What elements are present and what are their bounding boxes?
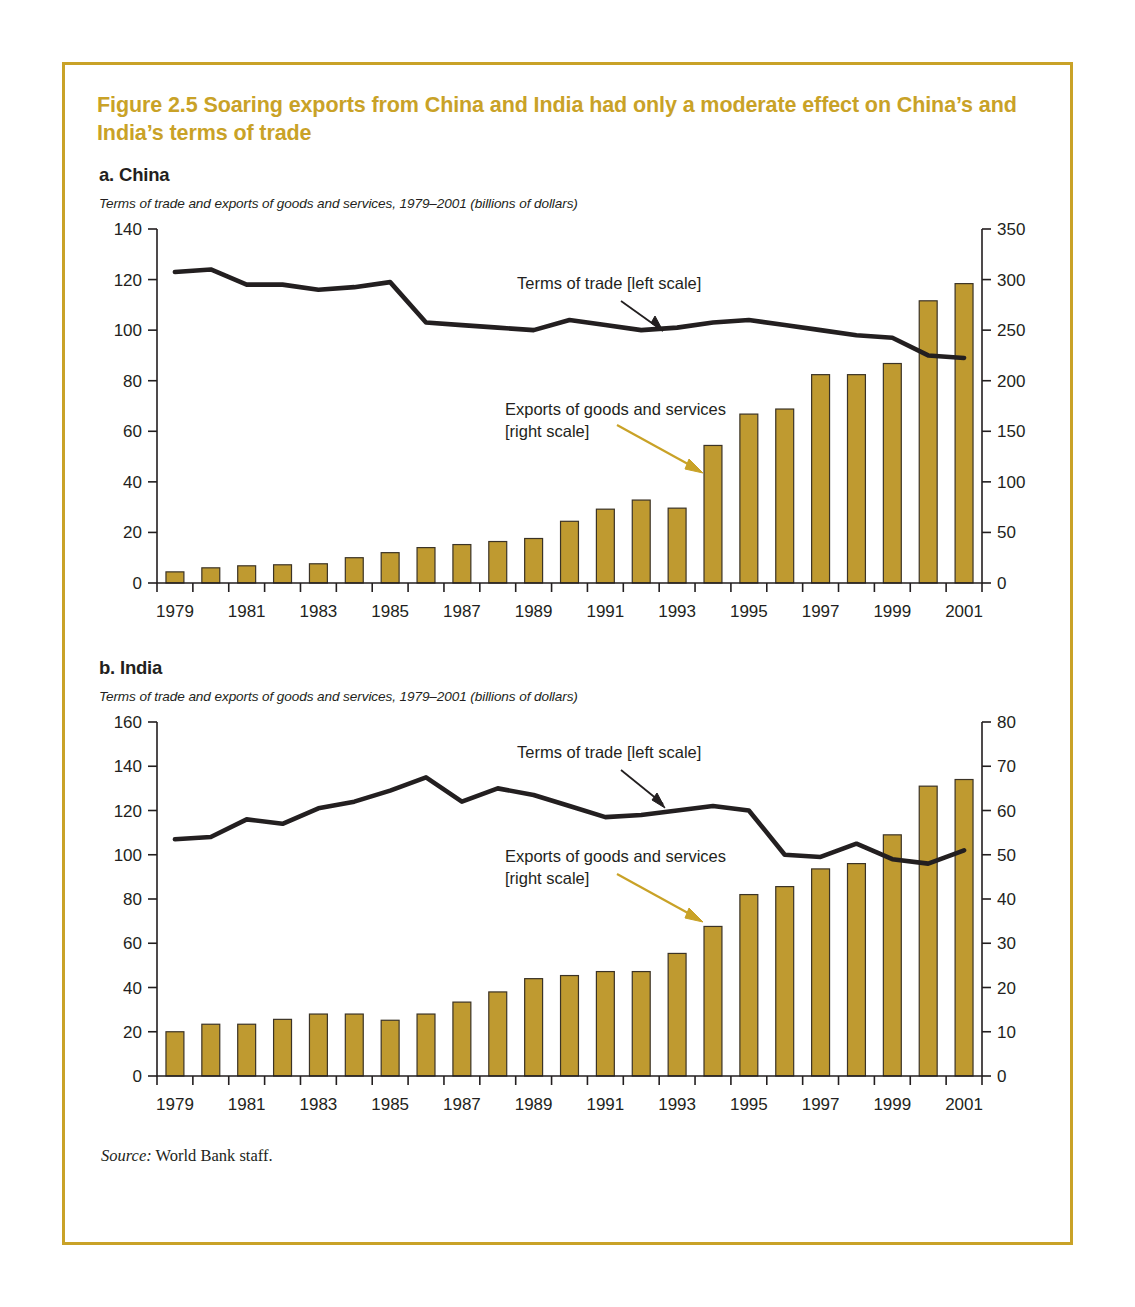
left-axis-tick-label: 100 (114, 846, 142, 865)
right-axis-tick-label: 20 (997, 978, 1016, 997)
x-axis-tick-label: 2001 (945, 1095, 983, 1114)
bar-1982 (274, 565, 292, 583)
bar-1991 (596, 971, 614, 1075)
china-bars-annotation-label-1: Exports of goods and services (505, 400, 726, 418)
x-axis-tick-label: 1985 (371, 602, 409, 621)
x-axis-tick-label: 1981 (228, 1095, 266, 1114)
bar-1992 (632, 500, 650, 583)
left-axis-tick-label: 80 (123, 890, 142, 909)
source-label: Source: (101, 1146, 152, 1165)
chart-india: 0204060801001201401600102030405060708019… (97, 712, 1040, 1132)
left-axis-tick-label: 100 (114, 321, 142, 340)
x-axis-tick-label: 1983 (299, 1095, 337, 1114)
bar-1997 (812, 374, 830, 582)
china-bars-annotation-arrow (617, 425, 697, 469)
source-note: Source: World Bank staff. (101, 1146, 1040, 1166)
right-axis-tick-label: 50 (997, 846, 1016, 865)
x-axis-tick-label: 1999 (873, 1095, 911, 1114)
right-axis-tick-label: 200 (997, 371, 1025, 390)
figure-title: Figure 2.5 Soaring exports from China an… (97, 91, 1027, 148)
china-bars-arrowhead-icon (685, 459, 703, 473)
left-axis-tick-label: 160 (114, 713, 142, 732)
x-axis-tick-label: 1981 (228, 602, 266, 621)
bar-1986 (417, 1014, 435, 1076)
left-axis-tick-label: 60 (123, 422, 142, 441)
x-axis-tick-label: 1983 (299, 602, 337, 621)
x-axis-tick-label: 1979 (156, 602, 194, 621)
x-axis-tick-label: 1995 (730, 1095, 768, 1114)
x-axis-tick-label: 1989 (515, 1095, 553, 1114)
bar-1994 (704, 445, 722, 583)
left-axis-tick-label: 140 (114, 757, 142, 776)
india-bars-annotation-arrow (617, 874, 697, 918)
x-axis-tick-label: 2001 (945, 602, 983, 621)
bar-2000 (919, 301, 937, 583)
left-axis-tick-label: 140 (114, 220, 142, 239)
right-axis-tick-label: 50 (997, 523, 1016, 542)
china-annotations: Terms of trade [left scale] Exports of g… (505, 274, 726, 473)
bar-1992 (632, 971, 650, 1075)
india-bars-annotation-label-1: Exports of goods and services (505, 847, 726, 865)
bar-1999 (883, 835, 901, 1076)
chart-india-svg: 0204060801001201401600102030405060708019… (97, 712, 1042, 1132)
left-axis-tick-label: 120 (114, 801, 142, 820)
bar-1990 (561, 521, 579, 583)
panel-a-subtitle: Terms of trade and exports of goods and … (99, 196, 1040, 211)
x-axis-tick-label: 1995 (730, 602, 768, 621)
bar-1980 (202, 568, 220, 583)
bar-1989 (525, 978, 543, 1075)
x-axis-tick-label: 1997 (802, 1095, 840, 1114)
right-axis-tick-label: 30 (997, 934, 1016, 953)
right-axis-tick-label: 60 (997, 801, 1016, 820)
right-axis-tick-label: 40 (997, 890, 1016, 909)
left-axis-tick-label: 20 (123, 1023, 142, 1042)
bar-1996 (776, 886, 794, 1075)
bar-1987 (453, 544, 471, 582)
figure-frame: Figure 2.5 Soaring exports from China an… (62, 62, 1073, 1245)
right-axis-tick-label: 300 (997, 270, 1025, 289)
x-axis-tick-label: 1987 (443, 1095, 481, 1114)
bar-1981 (238, 566, 256, 583)
bar-1990 (561, 975, 579, 1075)
x-axis-tick-label: 1985 (371, 1095, 409, 1114)
left-axis-tick-label: 0 (133, 574, 142, 593)
chart-china: 0204060801001201400501001502002503003501… (97, 219, 1040, 639)
panel-b-label: b. India (99, 657, 1040, 679)
bar-1987 (453, 1002, 471, 1076)
india-bars-annotation-label-2: [right scale] (505, 869, 589, 887)
bar-1980 (202, 1024, 220, 1076)
bar-1997 (812, 869, 830, 1076)
left-axis-tick-label: 20 (123, 523, 142, 542)
left-axis-tick-label: 120 (114, 270, 142, 289)
left-axis-tick-label: 60 (123, 934, 142, 953)
right-axis-tick-label: 0 (997, 574, 1006, 593)
x-axis-tick-label: 1993 (658, 1095, 696, 1114)
left-axis-tick-label: 80 (123, 371, 142, 390)
bar-1993 (668, 508, 686, 583)
bar-1996 (776, 409, 794, 583)
x-axis-tick-label: 1987 (443, 602, 481, 621)
x-axis-tick-label: 1991 (586, 1095, 624, 1114)
panel-b-subtitle: Terms of trade and exports of goods and … (99, 689, 1040, 704)
china-line-annotation-label: Terms of trade [left scale] (517, 274, 701, 292)
right-axis-tick-label: 70 (997, 757, 1016, 776)
bar-1998 (847, 374, 865, 582)
india-bars-arrowhead-icon (685, 908, 703, 922)
bar-1988 (489, 541, 507, 582)
bar-1981 (238, 1024, 256, 1076)
source-value: World Bank staff. (152, 1146, 273, 1165)
bar-2001 (955, 283, 973, 582)
right-axis-tick-label: 10 (997, 1023, 1016, 1042)
x-axis-tick-label: 1993 (658, 602, 696, 621)
bar-1979 (166, 1032, 184, 1076)
india-annotations: Terms of trade [left scale] Exports of g… (505, 743, 726, 922)
china-bars-annotation-label-2: [right scale] (505, 422, 589, 440)
bar-1995 (740, 414, 758, 583)
x-axis-tick-label: 1989 (515, 602, 553, 621)
bar-1998 (847, 863, 865, 1075)
bar-1993 (668, 953, 686, 1076)
bar-1979 (166, 572, 184, 583)
figure-content: Figure 2.5 Soaring exports from China an… (97, 91, 1040, 1222)
right-axis-tick-label: 150 (997, 422, 1025, 441)
panel-a-label: a. China (99, 164, 1040, 186)
